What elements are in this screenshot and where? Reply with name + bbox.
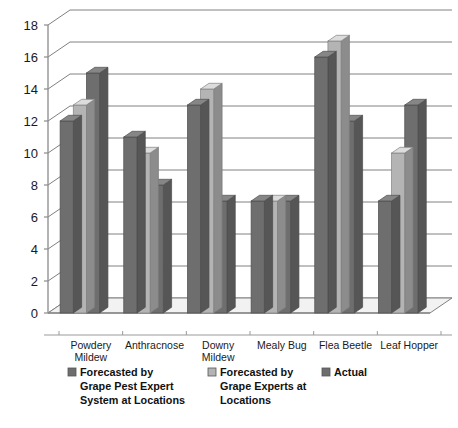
category-label: Powdery xyxy=(70,339,112,351)
gridline-depth-connector xyxy=(48,74,70,89)
bar-side-face xyxy=(86,99,94,313)
category-label: Mealy Bug xyxy=(257,339,307,351)
legend: Forecasted byGrape Pest ExpertSystem at … xyxy=(68,366,367,406)
y-axis-tick-label: 10 xyxy=(24,146,38,161)
legend-label: Locations xyxy=(220,394,271,406)
category-label: Flea Beetle xyxy=(319,339,372,351)
y-axis-tick-label: 4 xyxy=(31,242,38,257)
bar-side-face xyxy=(73,115,81,313)
gridline-depth-connector xyxy=(48,10,70,25)
legend-swatch xyxy=(208,368,216,376)
bar-side-face xyxy=(392,195,400,313)
bar xyxy=(187,99,209,313)
bar-side-face xyxy=(264,195,272,313)
legend-swatch xyxy=(322,368,330,376)
bar-front-face xyxy=(378,201,391,313)
legend-swatch xyxy=(68,368,76,376)
bar xyxy=(315,51,337,313)
category-label: Anthracnose xyxy=(125,339,184,351)
bar-side-face xyxy=(354,115,362,313)
legend-label: Grape Experts at xyxy=(220,380,307,392)
bar xyxy=(60,115,82,313)
legend-label: System at Locations xyxy=(80,394,185,406)
legend-label: Actual xyxy=(334,366,367,378)
bar-side-face xyxy=(201,99,209,313)
chart-canvas: 024681012141618 PowderyMildewAnthracnose… xyxy=(0,0,458,428)
bar xyxy=(251,195,273,313)
category-label: Mildew xyxy=(202,351,235,363)
legend-label: Forecasted by xyxy=(80,366,153,378)
gridline-depth-connector xyxy=(48,42,70,57)
bar xyxy=(124,131,146,313)
y-axis-tick-label: 14 xyxy=(24,82,38,97)
y-axis-tick-label: 12 xyxy=(24,114,38,129)
bar-side-face xyxy=(227,195,235,313)
bar-side-face xyxy=(163,179,171,313)
y-axis-tick-labels: 024681012141618 xyxy=(24,18,38,321)
y-axis-tick-label: 18 xyxy=(24,18,38,33)
legend-label: Forecasted by xyxy=(220,366,293,378)
y-axis-tick-label: 2 xyxy=(31,274,38,289)
bar xyxy=(378,195,400,313)
legend-label: Grape Pest Expert xyxy=(80,380,174,392)
bar-side-face xyxy=(214,83,222,313)
category-label: Leaf Hopper xyxy=(380,339,438,351)
category-label: Downy xyxy=(202,339,235,351)
bar-side-face xyxy=(405,147,413,313)
bar-front-face xyxy=(251,201,264,313)
bar-front-face xyxy=(60,121,73,313)
bar-front-face xyxy=(187,105,200,313)
bar-side-face xyxy=(100,67,108,313)
bar-side-face xyxy=(137,131,145,313)
bar-side-face xyxy=(328,51,336,313)
y-axis-tick-label: 8 xyxy=(31,178,38,193)
category-label: Mildew xyxy=(74,351,107,363)
bar-front-face xyxy=(124,137,137,313)
y-axis-tick-label: 16 xyxy=(24,50,38,65)
bars xyxy=(60,35,426,313)
bar-chart: 024681012141618 PowderyMildewAnthracnose… xyxy=(0,0,458,428)
bar-side-face xyxy=(341,35,349,313)
bar-side-face xyxy=(277,195,285,313)
y-axis-tick-label: 0 xyxy=(31,306,38,321)
x-axis-category-labels: PowderyMildewAnthracnoseDownyMildewMealy… xyxy=(44,331,452,363)
bar-side-face xyxy=(291,195,299,313)
bar-side-face xyxy=(150,147,158,313)
bar-front-face xyxy=(315,57,328,313)
bar-side-face xyxy=(418,99,426,313)
y-axis-tick-label: 6 xyxy=(31,210,38,225)
